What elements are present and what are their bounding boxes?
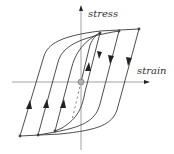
virgin-curve [81,33,100,82]
strain-axis-arrow-icon [144,80,150,84]
arrow-up-icon [43,99,49,108]
hysteresis-diagram: stress strain [0,0,174,154]
axes [12,5,150,150]
tip-point [37,134,40,137]
tip-point [54,130,57,133]
stress-label: stress [88,8,118,19]
tip-point [19,135,22,138]
tip-point [138,28,141,31]
arrow-down-icon [97,51,102,59]
arrow-up-icon [26,100,32,109]
origin-point [78,79,84,85]
tip-point [118,30,121,33]
strain-label: strain [137,65,167,76]
initial-loading-curve [72,82,81,120]
stress-axis-arrow-icon [79,5,83,11]
tip-point [99,32,102,35]
